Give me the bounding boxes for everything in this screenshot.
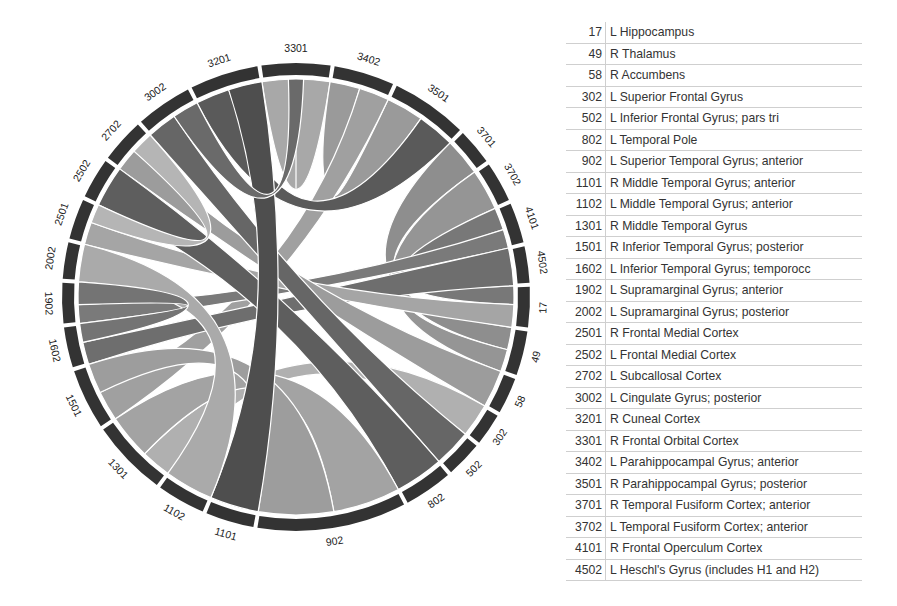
- segment-label: 3301: [284, 42, 308, 54]
- region-name: L Middle Temporal Gyrus; anterior: [606, 194, 863, 216]
- segment-label: 3002: [142, 80, 168, 103]
- legend-row: 3501R Parahippocampal Gyrus; posterior: [566, 473, 862, 495]
- segment-label: 1602: [47, 338, 64, 364]
- segment-label: 4502: [535, 250, 550, 275]
- region-name: L Parahippocampal Gyrus; anterior: [606, 452, 863, 474]
- region-name: L Frontal Medial Cortex: [606, 344, 863, 366]
- segment-label: 3501: [426, 81, 452, 104]
- region-code: 2002: [566, 301, 606, 323]
- region-name: R Parahippocampal Gyrus; posterior: [606, 473, 863, 495]
- region-name: R Temporal Fusiform Cortex; anterior: [606, 495, 863, 517]
- region-name: L Superior Temporal Gyrus; anterior: [606, 151, 863, 173]
- legend-row: 1902L Supramarginal Gyrus; anterior: [566, 280, 862, 302]
- region-code: 2501: [566, 323, 606, 345]
- region-code: 1501: [566, 237, 606, 259]
- region-code: 2702: [566, 366, 606, 388]
- region-name: R Accumbens: [606, 65, 863, 87]
- chord-diagram: 3301340235013701370241014502174958302502…: [0, 0, 580, 606]
- ring-segment-3301: [261, 63, 330, 77]
- region-name: R Cuneal Cortex: [606, 409, 863, 431]
- segment-label: 3402: [356, 50, 382, 68]
- region-code: 3402: [566, 452, 606, 474]
- legend-row: 1501R Inferior Temporal Gyrus; posterior: [566, 237, 862, 259]
- ring-segment-1902: [62, 283, 75, 324]
- legend-row: 1101R Middle Temporal Gyrus; anterior: [566, 172, 862, 194]
- segment-label: 49: [528, 349, 543, 363]
- segment-label: 4101: [523, 205, 542, 231]
- segment-label: 3201: [206, 51, 232, 70]
- region-name: L Hippocampus: [606, 22, 863, 43]
- ring-segment-4502: [513, 246, 530, 283]
- segment-label: 302: [489, 426, 509, 447]
- region-legend-table: 17L Hippocampus49R Thalamus58R Accumbens…: [566, 22, 862, 581]
- legend-row: 1102L Middle Temporal Gyrus; anterior: [566, 194, 862, 216]
- legend-row: 3301R Frontal Orbital Cortex: [566, 430, 862, 452]
- region-code: 302: [566, 86, 606, 108]
- segment-label: 2702: [99, 117, 124, 143]
- legend-row: 3002L Cingulate Gyrus; posterior: [566, 387, 862, 409]
- segment-label: 1102: [162, 501, 188, 523]
- legend-row: 58R Accumbens: [566, 65, 862, 87]
- legend-row: 2702L Subcallosal Cortex: [566, 366, 862, 388]
- segment-label: 2502: [70, 157, 92, 183]
- segment-label: 2501: [52, 201, 71, 227]
- segment-label: 2002: [42, 245, 58, 270]
- region-name: R Middle Temporal Gyrus; anterior: [606, 172, 863, 194]
- region-name: L Supramarginal Gyrus; anterior: [606, 280, 863, 302]
- region-name: R Frontal Operculum Cortex: [606, 538, 863, 560]
- segment-label: 902: [325, 533, 344, 548]
- region-code: 1602: [566, 258, 606, 280]
- region-name: L Supramarginal Gyrus; posterior: [606, 301, 863, 323]
- region-code: 3201: [566, 409, 606, 431]
- region-code: 2502: [566, 344, 606, 366]
- legend-row: 902L Superior Temporal Gyrus; anterior: [566, 151, 862, 173]
- region-name: L Subcallosal Cortex: [606, 366, 863, 388]
- region-code: 802: [566, 129, 606, 151]
- legend-row: 502L Inferior Frontal Gyrus; pars tri: [566, 108, 862, 130]
- legend-row: 2002L Supramarginal Gyrus; posterior: [566, 301, 862, 323]
- segment-label: 1501: [64, 392, 85, 418]
- legend-row: 17L Hippocampus: [566, 22, 862, 43]
- region-code: 3501: [566, 473, 606, 495]
- region-code: 4502: [566, 559, 606, 581]
- legend-row: 2501R Frontal Medial Cortex: [566, 323, 862, 345]
- legend-row: 802L Temporal Pole: [566, 129, 862, 151]
- segment-label: 3701: [475, 124, 499, 150]
- region-code: 3002: [566, 387, 606, 409]
- segment-label: 1101: [213, 525, 238, 543]
- legend-row: 3701R Temporal Fusiform Cortex; anterior: [566, 495, 862, 517]
- legend-row: 3402L Parahippocampal Gyrus; anterior: [566, 452, 862, 474]
- legend-row: 49R Thalamus: [566, 43, 862, 65]
- ring-segment-17: [516, 287, 530, 328]
- region-code: 3702: [566, 516, 606, 538]
- legend-row: 1301R Middle Temporal Gyrus: [566, 215, 862, 237]
- segment-label: 1902: [43, 292, 56, 316]
- region-code: 17: [566, 22, 606, 43]
- region-code: 502: [566, 108, 606, 130]
- segment-label: 502: [463, 458, 484, 479]
- region-name: R Frontal Orbital Cortex: [606, 430, 863, 452]
- legend-row: 2502L Frontal Medial Cortex: [566, 344, 862, 366]
- region-name: R Frontal Medial Cortex: [606, 323, 863, 345]
- region-name: L Temporal Pole: [606, 129, 863, 151]
- legend-row: 3702L Temporal Fusiform Cortex; anterior: [566, 516, 862, 538]
- region-name: L Cingulate Gyrus; posterior: [606, 387, 863, 409]
- segment-label: 802: [425, 490, 446, 510]
- region-code: 1101: [566, 172, 606, 194]
- region-code: 1102: [566, 194, 606, 216]
- region-code: 902: [566, 151, 606, 173]
- region-code: 1902: [566, 280, 606, 302]
- region-name: R Inferior Temporal Gyrus; posterior: [606, 237, 863, 259]
- region-name: L Temporal Fusiform Cortex; anterior: [606, 516, 863, 538]
- region-name: L Inferior Temporal Gyrus; temporocc: [606, 258, 863, 280]
- region-code: 49: [566, 43, 606, 65]
- segment-label: 58: [512, 393, 528, 409]
- chord-ribbons: [78, 79, 514, 515]
- region-code: 1301: [566, 215, 606, 237]
- region-name: R Thalamus: [606, 43, 863, 65]
- segment-label: 3702: [502, 161, 524, 187]
- region-name: L Superior Frontal Gyrus: [606, 86, 863, 108]
- ring-segment-2002: [63, 242, 80, 279]
- region-name: R Middle Temporal Gyrus: [606, 215, 863, 237]
- segment-label: 17: [536, 302, 549, 314]
